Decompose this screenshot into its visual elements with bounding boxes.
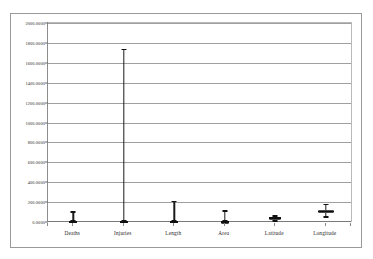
x-axis-tick-mark: [350, 223, 351, 226]
whisker-cap-upper: [71, 211, 76, 213]
whisker-cap-upper: [273, 215, 278, 217]
y-axis-tick-label: 1200.0000: [25, 100, 45, 105]
y-axis-tick-mark: [45, 122, 48, 123]
whisker-cap-upper: [323, 204, 328, 206]
x-axis-label-deaths: Deaths: [64, 230, 80, 236]
y-axis-tick-label: 1800.0000: [25, 40, 45, 45]
gridline: [48, 202, 351, 203]
y-axis-tick-label: 1000.0000: [25, 120, 45, 125]
plot-area: 2000.00001800.00001600.00001400.00001200…: [47, 22, 352, 222]
y-axis-tick-mark: [45, 42, 48, 43]
y-axis-tick-label: 2000.0000: [25, 21, 45, 26]
axis-baseline: [48, 221, 351, 222]
gridline: [48, 123, 351, 124]
gridline: [48, 162, 351, 163]
gridline: [48, 142, 351, 143]
gridline: [48, 43, 351, 44]
y-axis-tick-label: 1600.0000: [25, 60, 45, 65]
x-axis-label-area: Area: [218, 230, 229, 236]
y-axis-tick-mark: [45, 162, 48, 163]
whisker-cap-upper: [172, 201, 177, 203]
y-axis-tick-mark: [45, 23, 48, 24]
x-axis-tick-mark: [274, 223, 275, 226]
x-axis: DeathsInjuriesLengthAreaLatitudeLongitud…: [47, 223, 352, 247]
gridline: [48, 63, 351, 64]
box-plot-longitude: [313, 23, 339, 222]
y-axis-tick-mark: [45, 102, 48, 103]
y-axis-tick-label: 200.0000: [28, 200, 45, 205]
x-axis-tick-mark: [123, 223, 124, 226]
median-line: [269, 217, 281, 219]
chart-frame: 2000.00001800.00001600.00001400.00001200…: [10, 13, 362, 248]
box-plot-latitude: [262, 23, 288, 222]
y-axis-tick-label: 600.0000: [28, 160, 45, 165]
x-axis-tick-mark: [224, 223, 225, 226]
gridline: [48, 23, 351, 24]
x-axis-label-length: Length: [165, 230, 181, 236]
whisker-cap-lower: [323, 216, 328, 218]
box-plot-area: [212, 23, 238, 222]
gridline: [48, 83, 351, 84]
box-plot-deaths: [60, 23, 86, 222]
y-axis-tick-label: 0.0000: [32, 220, 45, 225]
whisker-cap-lower: [273, 220, 278, 222]
whisker-line: [174, 201, 175, 222]
y-axis-tick-mark: [45, 82, 48, 83]
x-axis-label-latitude: Latitude: [265, 230, 284, 236]
y-axis-tick-label: 400.0000: [28, 180, 45, 185]
box-plot-injuries: [111, 23, 137, 222]
whisker-cap-upper: [121, 49, 126, 51]
median-line: [318, 211, 334, 213]
y-axis-tick-mark: [45, 142, 48, 143]
plot-wrapper: 2000.00001800.00001600.00001400.00001200…: [11, 14, 361, 247]
gridline: [48, 103, 351, 104]
x-axis-label-injuries: Injuries: [114, 230, 131, 236]
x-axis-tick-mark: [325, 223, 326, 226]
box-plot-length: [161, 23, 187, 222]
x-axis-tick-mark: [47, 223, 48, 226]
y-axis-tick-mark: [45, 202, 48, 203]
y-axis-tick-label: 1400.0000: [25, 80, 45, 85]
gridline: [48, 182, 351, 183]
whisker-cap-upper: [222, 210, 227, 212]
y-axis-tick-label: 800.0000: [28, 140, 45, 145]
x-axis-tick-mark: [72, 223, 73, 226]
whisker-line: [123, 49, 124, 222]
x-axis-tick-mark: [173, 223, 174, 226]
x-axis-label-longitude: Longitude: [313, 230, 336, 236]
y-axis-tick-mark: [45, 62, 48, 63]
y-axis-tick-mark: [45, 182, 48, 183]
